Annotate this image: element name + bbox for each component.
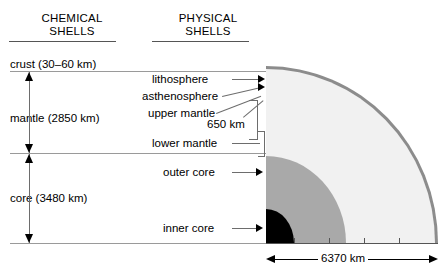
header-chemical-shells: CHEMICAL SHELLS [14,12,130,38]
label-650-km: 650 km [207,118,245,131]
leader-outer-core [232,172,258,173]
leader-arrow-inner-core [256,224,263,232]
scale-tick [329,238,330,244]
earth-cross-section [266,66,438,243]
radius-scale-label: 6370 km [318,252,368,265]
header-physical-shells: PHYSICAL SHELLS [153,12,263,38]
label-outer-core: outer core [163,166,215,179]
dimension-arrow-core [25,154,34,243]
earth-equator-baseline [266,243,438,244]
label-lower-mantle: lower mantle [152,137,217,150]
label-crust: crust (30–60 km) [10,58,96,71]
leader-asthenosphere [222,87,261,97]
bracket-lower-mantle [258,131,265,157]
leader-inner-core [232,228,258,229]
label-lithosphere: lithosphere [152,73,208,86]
leader-arrow-lithosphere [258,75,265,83]
scale-tick [294,238,295,244]
leader-lithosphere [232,79,260,80]
divider-mantle-base [10,153,266,154]
scale-tick [364,238,365,244]
divider-crust-base [10,71,266,72]
header-chemical-underline [9,41,116,42]
leader-arrow-outer-core [256,168,263,176]
divider-core-base [10,243,266,244]
label-core: core (3480 km) [10,192,87,205]
diagram-canvas: CHEMICAL SHELLS PHYSICAL SHELLS crust (3… [0,0,444,276]
label-asthenosphere: asthenosphere [142,90,218,103]
bracket-650-km [249,100,258,140]
scale-tick [399,238,400,244]
dimension-arrow-mantle [25,72,34,153]
label-inner-core: inner core [163,222,214,235]
leader-arrow-asthenosphere [258,83,265,91]
label-upper-mantle: upper mantle [148,107,215,120]
radius-scale-arrow-left [266,255,275,263]
label-mantle: mantle (2850 km) [10,112,99,125]
radius-scale-arrow-right [429,255,438,263]
leader-lower-mantle [232,143,260,144]
header-physical-underline [152,41,249,42]
